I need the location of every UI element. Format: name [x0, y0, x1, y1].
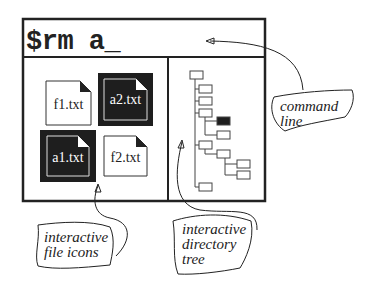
file-label-a1: a1.txt [47, 150, 89, 166]
tree-node [237, 171, 250, 179]
tree-node [199, 141, 212, 149]
tree-node [199, 109, 212, 117]
file-icons-annotation: interactive file icons [44, 230, 116, 260]
tree-node [237, 160, 250, 168]
file-label-f2: f2.txt [104, 150, 147, 166]
command-line-input[interactable]: $rm a_ [26, 27, 120, 57]
tree-node [199, 183, 212, 191]
tree-node [217, 150, 230, 158]
directory-tree-annotation: interactive directory tree [182, 222, 252, 267]
file-label-f1: f1.txt [46, 97, 91, 113]
tree-node-root [190, 71, 203, 79]
command-line-annotation: command line [280, 99, 352, 129]
tree-node-selected [217, 117, 230, 125]
tree-node [217, 131, 230, 139]
directory-tree[interactable] [190, 71, 250, 191]
tree-node [199, 85, 212, 93]
file-label-a2: a2.txt [104, 92, 147, 108]
tree-node [199, 97, 212, 105]
